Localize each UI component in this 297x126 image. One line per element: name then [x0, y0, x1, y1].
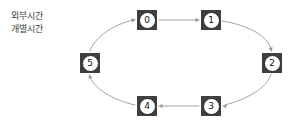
node-0-label: 0 [144, 16, 150, 25]
node-3[interactable]: 3 [201, 96, 221, 116]
node-3-disc: 3 [203, 98, 220, 115]
edge-3-4-arrowhead-icon [158, 104, 163, 108]
node-2-disc: 2 [264, 55, 281, 72]
node-0[interactable]: 0 [137, 10, 157, 30]
edge-1-2 [222, 21, 271, 49]
edge-4-5-arrowhead-icon [87, 73, 92, 79]
edge-4-5 [90, 77, 135, 105]
node-4[interactable]: 4 [137, 96, 157, 116]
label-individual-time: 개별시간 [11, 23, 71, 36]
diagram-canvas: 외부시간 개별시간 0 1 2 3 4 5 [0, 0, 297, 126]
node-5-label: 5 [87, 59, 93, 68]
node-1[interactable]: 1 [201, 10, 221, 30]
edge-2-3 [225, 74, 271, 105]
label-external-time: 외부시간 [11, 10, 71, 23]
edge-5-0 [90, 20, 133, 51]
node-2-label: 2 [269, 59, 275, 68]
edge-1-2-arrowhead-icon [269, 47, 274, 52]
node-3-label: 3 [208, 102, 214, 111]
node-2[interactable]: 2 [262, 53, 282, 73]
edge-5-0-arrowhead-icon [131, 17, 136, 22]
node-1-label: 1 [208, 16, 214, 25]
edge-0-1-arrowhead-icon [196, 18, 201, 22]
annotation-labels: 외부시간 개별시간 [11, 10, 71, 36]
node-5-disc: 5 [82, 55, 99, 72]
node-4-label: 4 [144, 102, 150, 111]
node-1-disc: 1 [203, 12, 220, 29]
node-4-disc: 4 [139, 98, 156, 115]
node-0-disc: 0 [139, 12, 156, 29]
node-5[interactable]: 5 [80, 53, 100, 73]
